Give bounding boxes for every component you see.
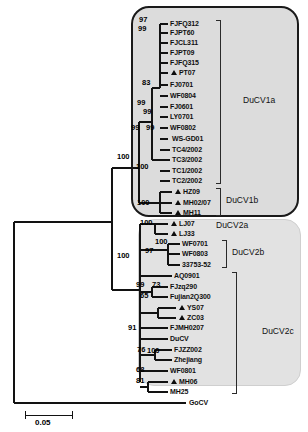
bootstrap-value: 100	[117, 252, 130, 260]
tip-label: FJzq290	[170, 283, 197, 291]
tip-label: LJ33	[179, 230, 195, 238]
scale-bar-tick-right	[72, 411, 73, 419]
tip-label: WF0802	[170, 124, 196, 132]
new-strain-triangle-icon	[179, 305, 185, 310]
clade-label-ducv1b: DuCV1b	[226, 196, 258, 205]
tip-label: LJ07	[179, 220, 195, 228]
tip-label: Zhejiang	[174, 356, 202, 364]
tip-label: LY0701	[170, 113, 193, 121]
tip-label: FJ0601	[170, 103, 193, 111]
bootstrap-value: 100	[155, 238, 168, 246]
clade-label-ducv1a: DuCV1a	[243, 96, 275, 105]
phylogenetic-tree-figure: FJFQ312 FJPT60 FJCL311 FJPT09 FJFQ315 PT…	[0, 0, 308, 432]
tip-label: YS07	[187, 304, 204, 312]
tip-label: TC4/2002	[172, 146, 202, 154]
tip-label: FJ0701	[170, 81, 193, 89]
tip-label: FJFQ312	[170, 20, 199, 28]
tip-label: 33753-52	[182, 261, 211, 269]
new-strain-triangle-icon	[179, 315, 185, 320]
tip-label: MH25	[170, 388, 188, 396]
bootstrap-value: 99	[131, 124, 139, 132]
bootstrap-value: 83	[142, 79, 150, 87]
tip-label-outgroup: GoCV	[189, 399, 208, 407]
new-strain-triangle-icon	[171, 231, 177, 236]
tip-label: FJZZ002	[174, 346, 202, 354]
tip-label: FJFQ315	[170, 59, 199, 67]
tip-label: FJMH0207	[170, 324, 204, 332]
scale-bar-tick-left	[25, 411, 26, 419]
new-strain-triangle-icon	[175, 200, 181, 205]
bootstrap-value: 100	[117, 153, 130, 161]
new-strain-triangle-icon	[171, 221, 177, 226]
new-strain-triangle-icon	[171, 70, 177, 75]
clade-label-ducv2a: DuCV2a	[216, 221, 248, 230]
bootstrap-value: 76	[137, 346, 145, 354]
clade-bracket-ducv1a	[216, 20, 221, 184]
clade-label-ducv2b: DuCV2b	[232, 248, 264, 257]
tip-label: FJPT09	[170, 49, 194, 57]
bootstrap-value: 99	[137, 99, 145, 107]
tip-label: TC2/2002	[172, 177, 202, 185]
bootstrap-value: 91	[128, 324, 136, 332]
bootstrap-value: 99	[138, 25, 146, 33]
clade-panel-ducv1	[131, 6, 299, 217]
tip-label: HZ09	[183, 188, 200, 196]
bootstrap-value: 100	[137, 199, 150, 207]
bootstrap-value: 73	[152, 281, 160, 289]
tip-label: WF0803	[182, 250, 208, 258]
bootstrap-value: 68	[136, 366, 144, 374]
tip-label: PT07	[179, 69, 195, 77]
bootstrap-value: 81	[136, 377, 144, 385]
scale-bar-label: 0.05	[35, 418, 51, 427]
scale-bar-line	[25, 415, 73, 416]
tip-label: ZC03	[187, 314, 204, 322]
tip-label: WS-GD01	[172, 135, 203, 143]
clade-bracket-ducv2b	[222, 240, 227, 268]
tip-label: MH06	[179, 378, 197, 386]
tip-label: FJCL311	[170, 39, 198, 47]
bootstrap-value: 99	[136, 281, 144, 289]
bootstrap-value: 65	[140, 292, 148, 300]
tip-label: Fujian2Q300	[170, 293, 211, 301]
clade-bracket-ducv1b	[216, 188, 221, 216]
new-strain-triangle-icon	[175, 189, 181, 194]
tip-label: WF0804	[170, 92, 196, 100]
new-strain-triangle-icon	[171, 379, 177, 384]
bootstrap-value: 99	[146, 124, 154, 132]
tip-label: TC3/2002	[172, 156, 202, 164]
tip-label: FJPT60	[170, 29, 194, 37]
clade-bracket-ducv2c	[232, 272, 237, 394]
tip-label: MH02/07	[183, 199, 211, 207]
tip-label: TC1/2002	[172, 167, 202, 175]
tip-label: WF0701	[182, 240, 208, 248]
bootstrap-value: 97	[139, 16, 147, 24]
tip-label: AQ0901	[174, 272, 199, 280]
tip-label: WF0801	[170, 367, 196, 375]
tip-label: MH11	[183, 209, 201, 217]
bootstrap-value: 97	[145, 247, 153, 255]
tip-label: DuCV	[170, 335, 189, 343]
bootstrap-value: 100	[136, 163, 149, 171]
bootstrap-value: 99	[143, 108, 151, 116]
bootstrap-value: 100	[147, 347, 160, 355]
clade-label-ducv2c: DuCV2c	[262, 327, 294, 336]
bootstrap-value: 100	[140, 219, 153, 227]
new-strain-triangle-icon	[175, 210, 181, 215]
